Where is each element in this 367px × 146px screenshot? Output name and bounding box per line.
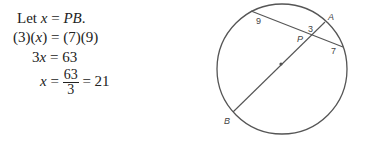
center-point — [279, 62, 282, 65]
point-label-A: A — [327, 12, 334, 22]
point-label-B: B — [224, 116, 230, 126]
circle-diagram: 9 3 7 P A B — [0, 0, 367, 146]
segment-label-7: 7 — [331, 46, 336, 56]
point-label-P: P — [297, 34, 303, 44]
segment-label-9: 9 — [256, 16, 261, 26]
chord-AB — [233, 22, 325, 112]
segment-label-3: 3 — [308, 24, 313, 34]
